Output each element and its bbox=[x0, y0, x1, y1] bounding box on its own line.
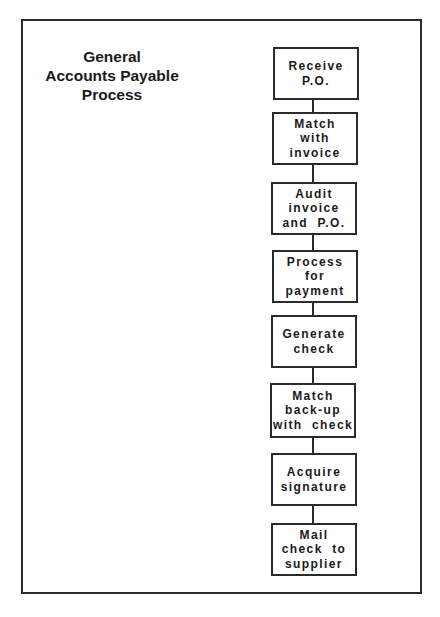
connector-4-5 bbox=[312, 303, 314, 315]
title-line-1: General bbox=[34, 47, 190, 66]
step-acquire-signature: Acquire signature bbox=[271, 453, 357, 506]
step-match-with-invoice: Match with invoice bbox=[272, 112, 358, 165]
step-label-line: back-up bbox=[285, 403, 341, 418]
title-line-2: Accounts Payable bbox=[34, 66, 190, 85]
step-label-line: Match bbox=[292, 389, 334, 404]
step-label-line: Process bbox=[287, 255, 344, 270]
step-label-line: Generate bbox=[282, 327, 345, 342]
connector-5-6 bbox=[312, 368, 314, 383]
step-audit-invoice: Audit invoice and P.O. bbox=[271, 182, 357, 235]
step-label-line: invoice bbox=[289, 146, 340, 161]
step-label-line: Audit bbox=[295, 187, 333, 202]
step-generate-check: Generate check bbox=[271, 315, 357, 368]
step-label-line: Acquire bbox=[287, 465, 341, 480]
step-label-line: P.O. bbox=[302, 74, 330, 89]
step-label-line: check to bbox=[282, 542, 347, 557]
step-label-line: Match bbox=[294, 117, 336, 132]
step-label-line: Receive bbox=[288, 59, 343, 74]
diagram-title: General Accounts Payable Process bbox=[34, 47, 190, 104]
step-label-line: check bbox=[293, 342, 334, 357]
step-label-line: Mail bbox=[300, 528, 329, 543]
diagram-frame bbox=[21, 19, 422, 594]
step-match-backup: Match back-up with check bbox=[270, 383, 356, 438]
step-mail-check: Mail check to supplier bbox=[271, 523, 357, 576]
step-label-line: and P.O. bbox=[282, 216, 345, 231]
connector-2-3 bbox=[312, 165, 314, 182]
step-label-line: with check bbox=[273, 418, 353, 433]
step-label-line: payment bbox=[285, 284, 344, 299]
connector-7-8 bbox=[312, 506, 314, 523]
step-label-line: invoice bbox=[288, 201, 339, 216]
step-label-line: signature bbox=[281, 480, 348, 495]
step-label-line: supplier bbox=[285, 557, 343, 572]
step-label-line: with bbox=[300, 131, 330, 146]
connector-1-2 bbox=[312, 99, 314, 112]
step-process-for-payment: Process for payment bbox=[272, 250, 358, 303]
connector-3-4 bbox=[312, 235, 314, 250]
step-receive-po: Receive P.O. bbox=[273, 47, 359, 100]
step-label-line: for bbox=[305, 269, 325, 284]
title-line-3: Process bbox=[34, 85, 190, 104]
connector-6-7 bbox=[312, 437, 314, 453]
